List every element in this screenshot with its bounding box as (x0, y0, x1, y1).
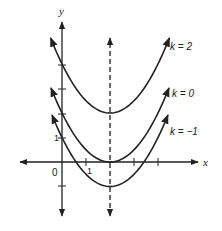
x-tick-label-1: 1 (87, 166, 92, 176)
parabola-family-diagram: y x 0 1 1 k = 2 k = 0 k = −1 (0, 0, 222, 231)
x-axis-label: x (202, 156, 208, 168)
y-tick-label-1: 1 (54, 133, 59, 143)
curve-label-km1: k = −1 (170, 126, 198, 137)
origin-label: 0 (52, 167, 58, 178)
curve-label-k2: k = 2 (170, 41, 192, 52)
curve-label-k0: k = 0 (172, 88, 194, 99)
y-axis-label: y (58, 5, 64, 17)
